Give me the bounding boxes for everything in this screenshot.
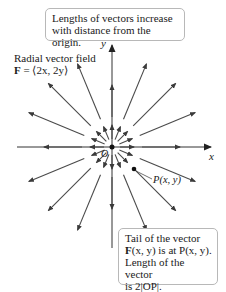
- outer-vector-arrow: [78, 64, 101, 119]
- origin-point: [110, 145, 115, 150]
- bottom-callout: Tail of the vector F(x, y) is at P(x, y)…: [118, 228, 218, 285]
- outer-vector-arrow: [140, 113, 195, 136]
- inner-vector-arrow: [115, 127, 120, 140]
- outer-vector-arrow: [48, 168, 90, 210]
- inner-vector-arrow: [119, 139, 132, 144]
- bottom-callout-line4: is 2|OP|.: [125, 280, 213, 292]
- outer-vector-arrow: [133, 83, 175, 125]
- inner-vector-arrow: [92, 139, 105, 144]
- x-axis-label: x: [209, 150, 214, 162]
- point-P-label: P(x, y): [153, 174, 181, 185]
- inner-vector-arrow: [96, 131, 106, 141]
- origin-label: O: [101, 148, 108, 159]
- outer-vector-arrow: [123, 64, 146, 119]
- bottom-callout-line2: F(x, y) is at P(x, y).: [125, 244, 213, 256]
- inner-vector-arrow: [115, 154, 120, 167]
- inner-vector-arrow: [104, 127, 109, 140]
- inner-vector-arrow: [118, 153, 128, 163]
- outer-vector-arrow: [78, 175, 101, 230]
- outer-vector-arrow: [123, 175, 146, 230]
- bottom-callout-line3: Length of the vector: [125, 256, 213, 280]
- inner-vector-arrow: [118, 131, 128, 141]
- outer-vector-arrow: [29, 158, 84, 181]
- bottom-line2-rest: (x, y) is at P(x, y).: [132, 244, 212, 256]
- y-axis-label: y: [101, 37, 106, 49]
- point-P-leader: [136, 171, 152, 179]
- outer-vector-arrow: [48, 83, 90, 125]
- point-P: [132, 167, 137, 172]
- bottom-callout-line1: Tail of the vector: [125, 232, 213, 244]
- inner-vector-arrow: [119, 150, 132, 155]
- bottom-F-symbol: F: [125, 244, 132, 256]
- outer-vector-arrow: [29, 113, 84, 136]
